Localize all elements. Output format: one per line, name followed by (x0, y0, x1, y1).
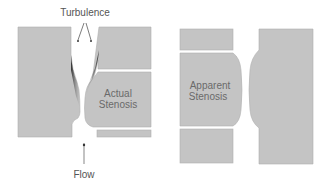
flow-label: Flow (73, 169, 95, 180)
lower-right-vessel-wall (97, 130, 151, 137)
actual-stenosis-label-line1: Actual (104, 88, 132, 99)
right-vessel-wall (249, 29, 313, 164)
turbulence-arrow-left (78, 23, 84, 40)
apparent-stenosis-label-line2: Stenosis (189, 91, 227, 102)
actual-stenosis-label-line2: Stenosis (99, 99, 137, 110)
left-vessel-wall (18, 27, 80, 137)
upper-left-vessel-wall (180, 29, 233, 50)
lower-left-vessel-wall (180, 129, 233, 163)
left-panel-actual-stenosis: Turbulence Actual Stenosis Flow (18, 7, 151, 180)
turbulence-label: Turbulence (60, 7, 110, 18)
flow-arrow-head (83, 144, 85, 146)
right-panel-apparent-stenosis: Apparent Stenosis (180, 29, 313, 164)
apparent-stenosis-label-line1: Apparent (190, 80, 231, 91)
turbulence-point-right (90, 40, 92, 42)
turbulence-arrow-right (86, 23, 91, 40)
turbulence-point-left (77, 40, 79, 42)
stenosis-diagram: Turbulence Actual Stenosis Flow Apparent… (0, 0, 322, 189)
